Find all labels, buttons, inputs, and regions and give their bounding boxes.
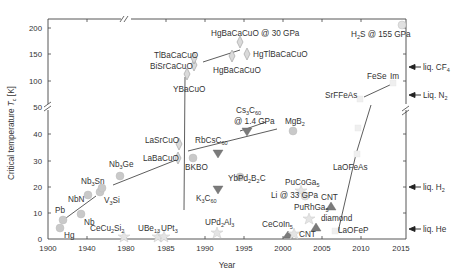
x-tick-label: 2015 bbox=[392, 244, 410, 253]
y-tick-label: 100 bbox=[29, 77, 43, 86]
label-mgb2: MgB2 bbox=[285, 117, 305, 127]
ref-label-liq-cf4: liq. CF4 bbox=[423, 63, 450, 73]
x-tick-label: 1990 bbox=[196, 244, 214, 253]
x-tick-label: 2010 bbox=[352, 244, 370, 253]
label-upt3: UPt3 bbox=[161, 224, 178, 234]
label-lasrcuo: LaSrCuO bbox=[145, 136, 179, 145]
label-ube13: UBe13 bbox=[138, 224, 160, 234]
label-h2s: H2S @ 155 GPa bbox=[351, 30, 411, 40]
y-tick-labels: 0 10 20 30 40 50 100 150 200 bbox=[29, 24, 43, 244]
label-v3si: V3Si bbox=[104, 196, 120, 206]
point-h2s bbox=[398, 21, 406, 29]
label-purhga5: PuRhGa5 bbox=[294, 203, 328, 213]
label-nb3ge: Nb3Ge bbox=[109, 160, 134, 170]
ref-label-liq-he: liq. He bbox=[423, 225, 447, 234]
point-labels: Hg Pb Nb NbN Nb3Sn V3Si Nb3Ge CeCu2Si2 U… bbox=[55, 29, 411, 240]
label-ybacuo: YBaCuO bbox=[173, 85, 205, 94]
label-bkbo: BKBO bbox=[185, 163, 208, 172]
label-rbcsc60: RbCsC60 bbox=[195, 136, 228, 146]
point-purhga5 bbox=[303, 213, 315, 224]
point-nb bbox=[77, 210, 85, 218]
point-srffeas bbox=[357, 96, 363, 102]
label-nb3sn: Nb3Sn bbox=[81, 177, 105, 187]
y-tick-label: 200 bbox=[29, 24, 43, 33]
label-cs3c60: Cs3C60 bbox=[236, 106, 261, 116]
ref-label-liq-n2: Liq. N2 bbox=[423, 91, 447, 101]
y-tick-label: 50 bbox=[33, 103, 42, 112]
label-cs3c60-pressure: @ 1.4 GPa bbox=[234, 117, 275, 126]
point-hg bbox=[56, 224, 64, 232]
y-tick-label: 30 bbox=[33, 157, 42, 166]
reference-labels: liq. CF4 Liq. N2 liq. H2 liq. He bbox=[423, 63, 450, 234]
point-pb bbox=[59, 216, 67, 224]
y-tick-label: 0 bbox=[38, 235, 43, 244]
superconductor-tc-chart: 1900 1940 1980 1985 1990 1995 2000 2005 … bbox=[0, 0, 465, 278]
x-tick-label: 2005 bbox=[313, 244, 331, 253]
point-mgb2 bbox=[289, 127, 297, 135]
point-upd2al3 bbox=[211, 227, 223, 238]
label-pb: Pb bbox=[55, 206, 65, 215]
point-nb3ge bbox=[116, 172, 124, 180]
label-laofep: LaOFeP bbox=[338, 226, 369, 235]
axes bbox=[48, 19, 406, 239]
y-tick-label: 20 bbox=[33, 183, 42, 192]
label-bisrcacuo: BiSrCaCuO bbox=[150, 62, 193, 71]
label-cecoin5: CeCoIn5 bbox=[262, 220, 293, 230]
point-bkbo bbox=[189, 154, 197, 162]
label-tlbacacuo: TlBaCaCuO bbox=[154, 51, 198, 60]
label-k3c60: K3C60 bbox=[196, 194, 217, 204]
x-tick-label: 1940 bbox=[78, 244, 96, 253]
y-tick-label: 150 bbox=[29, 50, 43, 59]
reference-arrows bbox=[409, 65, 421, 232]
x-tick-label: 1985 bbox=[157, 244, 175, 253]
label-hgbacacuo: HgBaCaCuO bbox=[213, 66, 261, 75]
label-nbn: NbN bbox=[68, 195, 84, 204]
label-hgbacacuo-30gpa: HgBaCaCuO @ 30 GPa bbox=[211, 29, 300, 38]
point-laofeas bbox=[354, 151, 360, 157]
x-tick-label: 1900 bbox=[39, 244, 57, 253]
series-iron-based bbox=[332, 80, 396, 234]
y-tick-label: 40 bbox=[33, 130, 42, 139]
x-tick-labels: 1900 1940 1980 1985 1990 1995 2000 2005 … bbox=[39, 244, 410, 253]
label-cecu2si2: CeCu2Si2 bbox=[90, 224, 124, 234]
x-axis-title: Year bbox=[219, 261, 236, 270]
label-srffeas: SrFFeAs bbox=[325, 91, 357, 100]
label-laofeas: LaOFeAs bbox=[333, 163, 368, 172]
label-pucoga5: PuCoGa5 bbox=[285, 178, 319, 188]
point-rbcsc60 bbox=[213, 150, 223, 158]
point-k3c60 bbox=[213, 186, 223, 194]
label-hgtlbacacuo: HgTlBaCaCuO bbox=[253, 50, 308, 59]
label-ybpd2b2c: YbPd2B2C bbox=[228, 174, 266, 184]
y-tick-label: 10 bbox=[33, 209, 42, 218]
x-tick-label: 1980 bbox=[117, 244, 135, 253]
label-li33: Li @ 33 GPa bbox=[271, 191, 318, 200]
label-cnt-2001: CNT bbox=[299, 230, 316, 239]
point-cs3c60 bbox=[242, 128, 252, 136]
point-sample-unlabeled bbox=[355, 125, 361, 131]
point-hgtlbacacuo bbox=[244, 48, 250, 60]
label-diamond: diamond bbox=[321, 214, 353, 223]
x-tick-label: 1995 bbox=[235, 244, 253, 253]
x-tick-label: 2000 bbox=[274, 244, 292, 253]
y-axis-title: Critical temperature Tc [K] bbox=[7, 86, 17, 180]
label-im: Im bbox=[390, 72, 399, 81]
point-nbn bbox=[84, 191, 92, 199]
ref-label-liq-h2: liq. H2 bbox=[423, 183, 445, 193]
label-cnt-2006: CNT bbox=[321, 193, 338, 202]
label-upd2al3: UPd2Al3 bbox=[205, 218, 234, 228]
label-fese: FeSe bbox=[367, 72, 387, 81]
label-hg: Hg bbox=[64, 231, 75, 240]
label-labacuo: LaBaCuO bbox=[143, 154, 179, 163]
